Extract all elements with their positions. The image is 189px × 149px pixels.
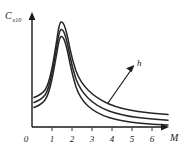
x-axis-tick-labels: 0 1 2 3 4 5 6 bbox=[24, 134, 155, 144]
chart-figure: 0 1 2 3 4 5 6 M C x10 h bbox=[0, 0, 189, 149]
y-axis-label-main: C bbox=[5, 10, 12, 21]
xtick-label-1: 1 bbox=[50, 134, 55, 144]
y-axis-arrowhead bbox=[29, 12, 36, 20]
x-axis-label: M bbox=[169, 132, 179, 143]
trend-arrow bbox=[108, 65, 135, 103]
xtick-label-6: 6 bbox=[150, 134, 155, 144]
xtick-label-0: 0 bbox=[24, 134, 29, 144]
trend-arrow-line bbox=[108, 70, 131, 103]
y-axis bbox=[29, 12, 36, 127]
xtick-label-5: 5 bbox=[130, 134, 135, 144]
curve-lower bbox=[34, 36, 168, 124]
xtick-label-3: 3 bbox=[89, 134, 95, 144]
xtick-label-2: 2 bbox=[70, 134, 75, 144]
data-curves bbox=[34, 22, 168, 125]
curve-middle bbox=[34, 29, 168, 120]
xtick-label-4: 4 bbox=[110, 134, 115, 144]
plot-area: 0 1 2 3 4 5 6 M C x10 h bbox=[0, 0, 189, 149]
y-axis-label-subscript: x10 bbox=[12, 17, 22, 23]
trend-label-h: h bbox=[137, 58, 142, 68]
y-axis-label: C x10 bbox=[5, 10, 21, 23]
trend-arrow-head bbox=[126, 65, 134, 72]
